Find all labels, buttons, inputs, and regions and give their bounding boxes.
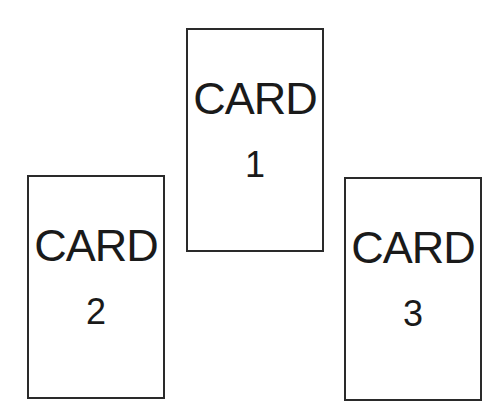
card-number: 3 bbox=[346, 294, 480, 334]
card-3[interactable]: CARD 3 bbox=[344, 177, 482, 401]
card-title: CARD bbox=[29, 221, 163, 271]
card-title: CARD bbox=[346, 223, 480, 273]
card-number: 1 bbox=[188, 145, 322, 185]
card-1[interactable]: CARD 1 bbox=[186, 28, 324, 252]
card-2[interactable]: CARD 2 bbox=[27, 175, 165, 399]
card-title: CARD bbox=[188, 74, 322, 124]
card-number: 2 bbox=[29, 292, 163, 332]
